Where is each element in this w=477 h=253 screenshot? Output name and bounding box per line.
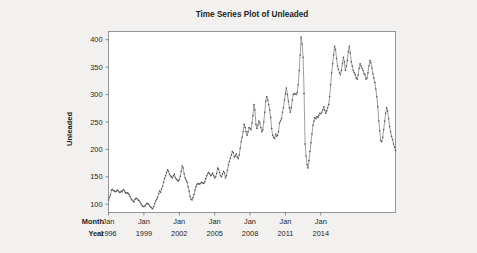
data-point [242, 131, 244, 133]
x-tick-label-year: 1999 [136, 229, 152, 238]
data-point [122, 191, 124, 193]
x-tick-label-month: Jan [209, 217, 221, 226]
data-point [123, 190, 125, 192]
data-point [300, 36, 302, 38]
data-point [139, 201, 141, 203]
data-point [165, 175, 167, 177]
data-point [189, 196, 191, 198]
data-point [335, 49, 337, 51]
data-point [194, 189, 196, 191]
data-point [291, 107, 293, 109]
data-point [238, 154, 240, 156]
data-point [284, 99, 286, 101]
data-point [262, 129, 264, 131]
data-point [298, 70, 300, 72]
data-point [253, 104, 255, 106]
data-point [169, 173, 171, 175]
x-axis-month-row-label: Month [82, 217, 105, 226]
x-tick-label-year: 2005 [206, 229, 222, 238]
data-point [166, 172, 168, 174]
data-point [301, 43, 303, 45]
data-point [185, 179, 187, 181]
data-point [193, 194, 195, 196]
data-point [358, 68, 360, 70]
data-point [281, 118, 283, 120]
data-point [315, 118, 317, 120]
data-point [191, 199, 193, 201]
data-point [280, 120, 282, 122]
data-point [175, 177, 177, 179]
data-point [317, 117, 319, 119]
data-point [274, 138, 276, 140]
data-point [152, 208, 154, 210]
data-point [269, 109, 271, 111]
data-point [237, 156, 239, 158]
data-point [312, 125, 314, 127]
data-point [286, 87, 288, 89]
data-point [162, 185, 164, 187]
data-point [241, 137, 243, 139]
data-point [386, 107, 388, 109]
y-tick-label: 350 [90, 63, 102, 72]
data-point [110, 194, 112, 196]
data-point [327, 107, 329, 109]
data-point [313, 120, 315, 122]
data-point [183, 173, 185, 175]
data-point [148, 204, 150, 206]
data-point [362, 70, 364, 72]
data-point [160, 191, 162, 193]
y-tick-label: 100 [90, 200, 102, 209]
data-point [381, 141, 383, 143]
data-point [219, 172, 221, 174]
data-point [257, 125, 259, 127]
data-point [289, 107, 291, 109]
data-point [378, 120, 380, 122]
data-point [258, 120, 260, 122]
data-point [292, 99, 294, 101]
data-point [395, 150, 397, 152]
data-point [211, 174, 213, 176]
data-point [310, 142, 312, 144]
x-tick-label-month: Jan [103, 217, 115, 226]
data-point [321, 111, 323, 113]
data-point [268, 104, 270, 106]
data-point [371, 68, 373, 70]
data-point [342, 63, 344, 65]
data-point [270, 117, 272, 119]
data-point [231, 154, 233, 156]
data-point [256, 128, 258, 130]
data-point [203, 183, 205, 185]
data-point [320, 113, 322, 115]
data-point [266, 96, 268, 98]
x-axis-year-row-label: Year [88, 229, 104, 238]
x-tick-label-year: 2011 [277, 229, 293, 238]
data-point [346, 65, 348, 67]
data-point [109, 196, 111, 198]
data-point [129, 196, 131, 198]
data-point [392, 139, 394, 141]
x-tick-label-month: Jan [244, 217, 256, 226]
data-point [140, 203, 142, 205]
data-point [179, 179, 181, 181]
data-point [309, 151, 311, 153]
data-point [297, 84, 299, 86]
data-point [195, 186, 197, 188]
data-point [348, 51, 350, 53]
x-tick-label-year: 2002 [171, 229, 187, 238]
data-point [181, 165, 183, 167]
data-point [247, 131, 249, 133]
data-point [161, 188, 163, 190]
data-point [164, 178, 166, 180]
data-point [279, 122, 281, 124]
data-point [108, 199, 110, 201]
x-tick-label-year: 2008 [242, 229, 258, 238]
data-point [330, 84, 332, 86]
data-point [385, 112, 387, 114]
data-point [332, 63, 334, 65]
data-point [304, 143, 306, 145]
data-point [303, 93, 305, 95]
data-point [338, 69, 340, 71]
data-point [128, 194, 130, 196]
data-point [235, 155, 237, 157]
data-point [145, 204, 147, 206]
